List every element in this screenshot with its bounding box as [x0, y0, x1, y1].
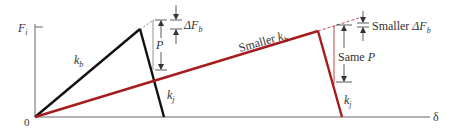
bolt-stiffness-label: kb [74, 53, 83, 69]
smaller-delta-fb-label: Smaller ΔFb [372, 19, 431, 35]
load-p-label: P [155, 38, 164, 52]
x-axis-label: δ [433, 110, 439, 124]
left-case-stiff-bolt: P ΔFb kb kj [35, 5, 202, 117]
origin-label: 0 [24, 116, 30, 128]
soft-joint-stiffness-line [318, 31, 342, 117]
force-deflection-diagram: Fi δ 0 P ΔFb kb kj Same P [0, 0, 458, 128]
right-case-soft-bolt: Same P Smaller ΔFb Smaller kb kj [35, 11, 431, 117]
soft-joint-stiffness-label: kj [344, 93, 352, 109]
soft-dashed-extension [318, 17, 362, 31]
smaller-bolt-stiffness-label: Smaller kb [237, 28, 289, 57]
bolt-stiffness-line [35, 29, 140, 117]
y-axis-label: Fi [17, 21, 28, 37]
same-p-label: Same P [338, 50, 376, 64]
joint-stiffness-label: kj [167, 88, 175, 104]
dashed-extension [140, 20, 154, 29]
axes: Fi δ 0 [17, 21, 439, 128]
delta-fb-label: ΔFb [183, 18, 202, 34]
